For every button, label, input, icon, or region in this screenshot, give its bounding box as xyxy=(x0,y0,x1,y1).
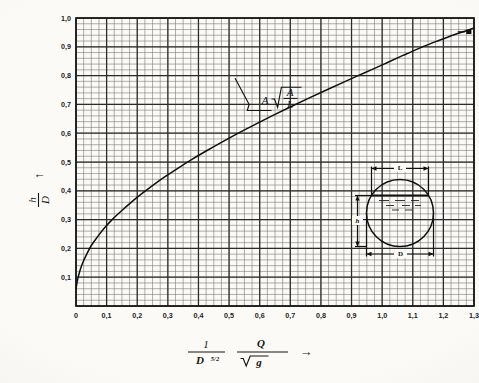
y-axis-title-arrow-icon: ↑ xyxy=(32,173,46,179)
x-axis-tick-label: 1,1 xyxy=(408,311,418,320)
chart-svg: 0,10,20,30,40,50,60,70,80,91,0 00,10,20,… xyxy=(0,0,479,383)
chart-figure: 0,10,20,30,40,50,60,70,80,91,0 00,10,20,… xyxy=(0,0,479,383)
x-axis-tick-label: 0,3 xyxy=(163,311,173,320)
x-axis-title-D: D xyxy=(195,354,204,366)
x-axis-tick-label: 0,5 xyxy=(224,311,234,320)
x-axis-tick-label: 0,2 xyxy=(132,311,142,320)
x-axis-tick-label: 0,6 xyxy=(255,311,265,320)
annotation-radicand-numerator: A xyxy=(286,86,294,98)
x-axis-tick-label: 1,0 xyxy=(377,311,387,320)
x-axis-tick-label: 0,1 xyxy=(102,311,112,320)
x-axis-tick-label: 0,7 xyxy=(285,311,295,320)
paper-background xyxy=(0,0,479,383)
x-axis-title-arrow-icon: → xyxy=(300,344,313,359)
y-axis-tick-label: 0,2 xyxy=(61,244,71,253)
x-axis-tick-label: 0 xyxy=(74,311,78,320)
dimension-L-label: L xyxy=(398,164,403,172)
y-axis-tick-label: 0,6 xyxy=(61,129,71,138)
x-axis-tick-label: 1,3 xyxy=(469,311,479,320)
y-axis-tick-label: 0,9 xyxy=(61,42,71,51)
x-axis-tick-label: 0,4 xyxy=(193,311,203,320)
dimension-D-label: D xyxy=(398,250,403,258)
y-axis-tick-label: 0,7 xyxy=(61,100,71,109)
x-axis-tick-label: 0,9 xyxy=(347,311,357,320)
dimension-h-label: h xyxy=(356,217,360,225)
x-axis-tick-label: 0,8 xyxy=(316,311,326,320)
annotation-lead-symbol: A xyxy=(261,94,269,106)
y-axis-tick-label: 0,4 xyxy=(61,186,71,195)
y-axis-title-numerator: h xyxy=(26,197,38,203)
annotation-radicand-denominator: L xyxy=(286,98,293,110)
x-axis-title-one: 1 xyxy=(203,338,209,350)
y-axis-tick-label: 1,0 xyxy=(61,14,71,23)
x-axis-title-exponent: 5/2 xyxy=(211,355,220,362)
y-axis-title-denominator: D xyxy=(39,196,51,205)
y-axis-tick-label: 0,5 xyxy=(61,158,71,167)
x-axis-tick-label: 1,2 xyxy=(438,311,448,320)
x-axis-title-Q: Q xyxy=(257,337,265,349)
end-marker-square xyxy=(466,30,471,34)
figure-page: 0,10,20,30,40,50,60,70,80,91,0 00,10,20,… xyxy=(0,0,479,383)
x-axis-title-g: g xyxy=(255,356,262,368)
y-axis-tick-label: 0,8 xyxy=(61,71,71,80)
y-axis-tick-label: 0,3 xyxy=(61,215,71,224)
y-axis-tick-label: 0,1 xyxy=(61,273,71,282)
